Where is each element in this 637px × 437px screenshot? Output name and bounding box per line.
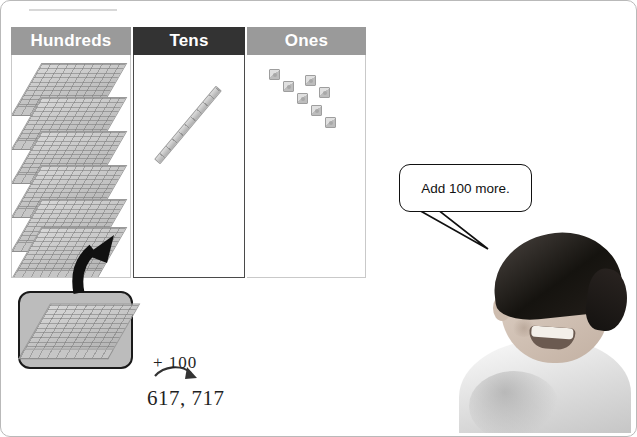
callout-hundreds-flat — [14, 304, 141, 367]
highlighted-flat-callout-box — [18, 291, 133, 369]
ones-cube — [269, 69, 280, 80]
column-header-hundreds: Hundreds — [11, 27, 131, 55]
column-header-tens: Tens — [133, 27, 245, 55]
column-header-ones: Ones — [247, 27, 366, 55]
number-sequence-label: 617, 717 — [147, 386, 225, 411]
column-body-ones — [247, 55, 366, 278]
photo-shirt-shadow — [469, 371, 559, 433]
flat-side-face — [18, 350, 114, 359]
flat-top-face — [23, 304, 140, 350]
operation-label: + 100 — [153, 353, 197, 373]
ones-cube — [325, 117, 336, 128]
flat-side-face — [11, 271, 102, 278]
top-rule — [29, 9, 117, 11]
place-value-column-ones: Ones — [247, 27, 366, 278]
speech-bubble: Add 100 more. — [399, 164, 532, 212]
ones-cube — [297, 93, 308, 104]
place-value-column-tens: Tens — [133, 27, 245, 278]
column-label-hundreds: Hundreds — [31, 31, 112, 51]
ones-cube — [311, 105, 322, 116]
place-value-column-hundreds: Hundreds — [11, 27, 131, 278]
ones-cube — [305, 75, 316, 86]
boy-photo — [441, 221, 631, 433]
place-value-table: Hundreds Tens — [11, 27, 366, 278]
column-label-ones: Ones — [285, 31, 328, 51]
column-label-tens: Tens — [169, 31, 208, 51]
column-body-tens — [133, 55, 245, 278]
ones-cube — [283, 81, 294, 92]
tens-rod — [154, 86, 222, 165]
worksheet-page: Hundreds Tens — [0, 0, 637, 437]
photo-teeth — [531, 326, 574, 340]
ones-cube — [319, 87, 330, 98]
column-body-hundreds — [11, 55, 131, 278]
speech-bubble-text: Add 100 more. — [421, 181, 510, 196]
